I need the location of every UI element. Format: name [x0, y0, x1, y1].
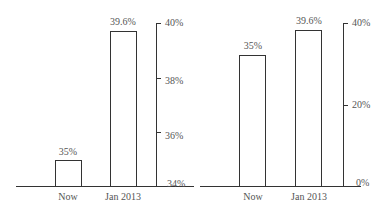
y-tick-label-40: 40% [352, 18, 370, 28]
category-label-jan-2013: Jan 2013 [284, 192, 334, 202]
bar-jan-2013 [295, 30, 322, 186]
y-tick-20 [344, 105, 348, 106]
bar-value-label-jan-2013: 39.6% [103, 17, 143, 27]
y-tick-38 [157, 78, 161, 79]
category-label-now: Now [43, 192, 93, 202]
bar-value-label-now: 35% [48, 147, 88, 157]
y-tick-label-36: 36% [165, 131, 183, 141]
y-tick-label-40: 40% [165, 18, 183, 28]
bar-jan-2013 [110, 31, 137, 186]
bar-now [239, 55, 266, 186]
y-tick-40 [157, 23, 161, 24]
category-label-now: Now [228, 192, 278, 202]
y-tick-label-0: 0% [356, 178, 369, 188]
y-tick-label-20: 20% [352, 100, 370, 110]
y-tick-40 [344, 23, 348, 24]
bar-now [55, 160, 82, 186]
bar-value-label-now: 35% [233, 41, 273, 51]
full-axis-chart: 35% Now 39.6% Jan 2013 40% 20% 0% [194, 0, 388, 215]
y-tick-label-34: 34% [167, 179, 185, 189]
y-tick-36 [157, 132, 161, 133]
category-label-jan-2013: Jan 2013 [98, 192, 148, 202]
x-axis-baseline [200, 186, 361, 187]
y-axis [156, 23, 157, 187]
bar-value-label-jan-2013: 39.6% [289, 16, 329, 26]
truncated-axis-chart: 35% Now 39.6% Jan 2013 40% 38% 36% 34% [0, 0, 200, 215]
y-tick-label-38: 38% [165, 76, 183, 86]
